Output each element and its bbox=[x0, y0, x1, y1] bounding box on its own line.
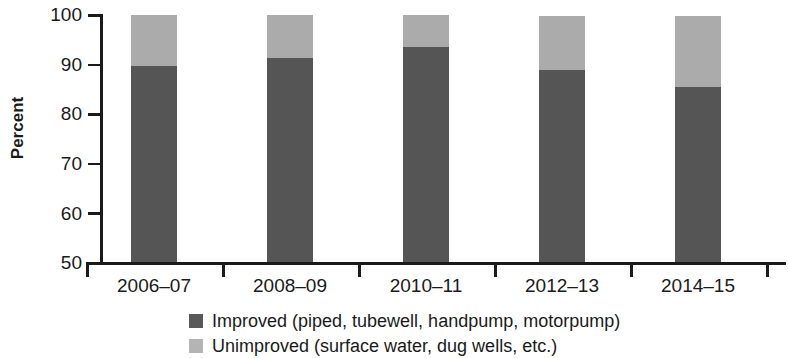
legend-label-unimproved: Unimproved (surface water, dug wells, et… bbox=[212, 337, 557, 355]
bar-segment-unimproved[interactable] bbox=[675, 16, 721, 86]
bar-segment-improved[interactable] bbox=[267, 58, 313, 263]
y-tick-100 bbox=[88, 14, 101, 17]
stacked-bar-chart: Percent 100 90 80 70 60 50 bbox=[0, 0, 788, 358]
y-tick-label-80: 80 bbox=[38, 103, 82, 125]
light-gray-swatch-icon bbox=[189, 339, 203, 353]
x-label-2014-15: 2014–15 bbox=[628, 275, 768, 297]
bar-2006-07[interactable] bbox=[131, 15, 177, 263]
y-tick-label-100: 100 bbox=[38, 4, 82, 26]
y-tick-label-50: 50 bbox=[38, 252, 82, 274]
y-tick-label-70: 70 bbox=[38, 153, 82, 175]
x-label-2008-09: 2008–09 bbox=[220, 275, 360, 297]
dark-gray-swatch-icon bbox=[189, 314, 203, 328]
y-axis-line bbox=[100, 14, 103, 264]
legend-item-unimproved[interactable]: Unimproved (surface water, dug wells, et… bbox=[189, 333, 749, 358]
bar-segment-improved[interactable] bbox=[131, 66, 177, 262]
y-tick-80 bbox=[88, 113, 101, 116]
bar-segment-unimproved[interactable] bbox=[267, 15, 313, 58]
y-tick-70 bbox=[88, 163, 101, 166]
bar-segment-improved[interactable] bbox=[675, 87, 721, 263]
bar-2008-09[interactable] bbox=[267, 15, 313, 263]
bar-segment-unimproved[interactable] bbox=[539, 16, 585, 70]
bar-2014-15[interactable] bbox=[675, 16, 721, 262]
bar-segment-unimproved[interactable] bbox=[131, 15, 177, 66]
y-tick-60 bbox=[88, 212, 101, 215]
legend: Improved (piped, tubewell, handpump, mot… bbox=[189, 308, 749, 358]
bar-2012-13[interactable] bbox=[539, 16, 585, 263]
x-label-2006-07: 2006–07 bbox=[84, 275, 224, 297]
y-axis-title: Percent bbox=[8, 88, 28, 168]
x-label-2012-13: 2012–13 bbox=[492, 275, 632, 297]
y-tick-label-90: 90 bbox=[38, 54, 82, 76]
legend-label-improved: Improved (piped, tubewell, handpump, mot… bbox=[212, 312, 620, 330]
legend-item-improved[interactable]: Improved (piped, tubewell, handpump, mot… bbox=[189, 308, 749, 333]
y-tick-50 bbox=[88, 262, 101, 265]
x-label-2010-11: 2010–11 bbox=[356, 275, 496, 297]
y-tick-label-60: 60 bbox=[38, 203, 82, 225]
bar-segment-improved[interactable] bbox=[403, 47, 449, 263]
bar-segment-improved[interactable] bbox=[539, 70, 585, 262]
bar-segment-unimproved[interactable] bbox=[403, 15, 449, 47]
y-tick-90 bbox=[88, 64, 101, 67]
bar-2010-11[interactable] bbox=[403, 15, 449, 263]
